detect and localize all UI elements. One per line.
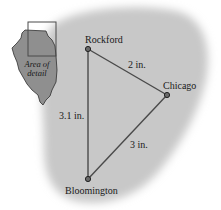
map-canvas: [0, 0, 221, 210]
detail-region-shape: [41, 7, 208, 202]
distance-label-rockford-chicago: 2 in.: [128, 60, 146, 70]
inset-caption: Area of detail: [20, 60, 54, 78]
chicago-point-icon: [164, 92, 169, 97]
distance-label-chicago-bloomington: 3 in.: [130, 140, 148, 150]
city-label-chicago: Chicago: [163, 81, 196, 91]
rockford-point-icon: [85, 46, 90, 51]
inset-caption-line2: detail: [20, 69, 54, 78]
distance-label-rockford-bloomington: 3.1 in.: [59, 111, 84, 121]
map-diagram: Area of detail Rockford Chicago Blooming…: [0, 0, 221, 210]
city-label-rockford: Rockford: [85, 35, 123, 45]
city-label-bloomington: Bloomington: [65, 186, 118, 196]
bloomington-point-icon: [85, 176, 90, 181]
